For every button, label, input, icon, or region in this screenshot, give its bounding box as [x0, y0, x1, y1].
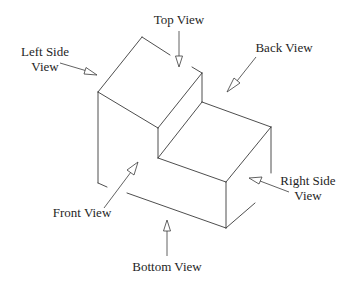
front-view-arrow	[104, 162, 138, 208]
label-bottom-view: Bottom View	[127, 259, 207, 274]
label-left-side-line1: Left Side	[12, 44, 78, 59]
back-view-arrow	[227, 57, 256, 92]
label-right-side-line1: Right Side	[271, 173, 345, 188]
bottom-view-arrow	[164, 220, 171, 256]
label-front-view: Front View	[48, 205, 116, 220]
label-top-view: Top View	[146, 12, 212, 27]
top-view-arrow	[176, 31, 183, 67]
label-left-side-line2: View	[12, 59, 78, 74]
stepped-block	[98, 37, 271, 228]
label-right-side-view: Right Side View	[271, 173, 345, 203]
label-left-side-view: Left Side View	[12, 44, 78, 74]
label-back-view: Back View	[249, 40, 319, 55]
label-right-side-line2: View	[271, 188, 345, 203]
